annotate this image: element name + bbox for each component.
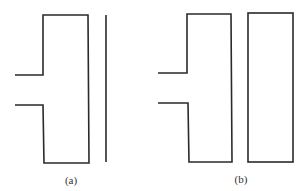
panel-a: (a) (15, 15, 106, 187)
resonator-shape-b (158, 14, 232, 162)
diagram-canvas: (a) (b) (0, 0, 305, 191)
panel-label-a: (a) (65, 174, 78, 187)
panel-label-b: (b) (235, 173, 248, 186)
panel-b: (b) (158, 13, 293, 186)
resonator-shape-a (15, 15, 89, 163)
side-rectangle-b (248, 13, 293, 162)
